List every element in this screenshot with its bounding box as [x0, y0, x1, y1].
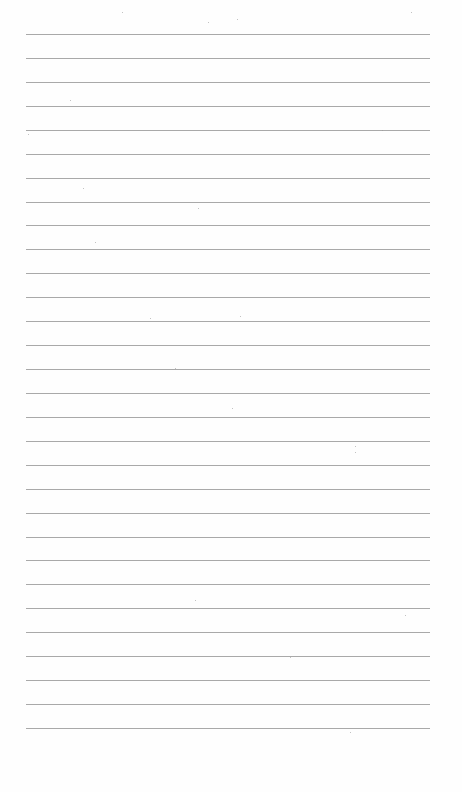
ruled-line	[26, 225, 430, 226]
ruled-line	[26, 584, 430, 585]
ruled-line	[26, 441, 430, 442]
ruled-line	[26, 154, 430, 155]
scan-speck	[122, 12, 123, 13]
ruled-line	[26, 417, 430, 418]
ruled-line	[26, 369, 430, 370]
ruled-line	[26, 34, 430, 35]
scan-speck	[83, 188, 84, 189]
scan-speck	[290, 657, 291, 658]
scan-speck	[175, 368, 176, 369]
scan-speck	[355, 446, 356, 447]
ruled-line	[26, 82, 430, 83]
scan-speck	[208, 22, 209, 23]
ruled-page	[0, 0, 462, 792]
ruled-line	[26, 632, 430, 633]
scan-speck	[350, 732, 351, 733]
scan-speck	[95, 242, 96, 243]
ruled-line	[26, 704, 430, 705]
ruled-line	[26, 728, 430, 729]
ruled-line	[26, 513, 430, 514]
ruled-line	[26, 58, 430, 59]
ruled-line	[26, 273, 430, 274]
ruled-line	[26, 608, 430, 609]
ruled-line	[26, 345, 430, 346]
ruled-line	[26, 489, 430, 490]
scan-speck	[232, 408, 233, 409]
ruled-line	[26, 393, 430, 394]
ruled-line	[26, 178, 430, 179]
scan-speck	[150, 318, 151, 319]
ruled-line	[26, 321, 430, 322]
ruled-line	[26, 297, 430, 298]
scan-speck	[355, 452, 356, 453]
ruled-line	[26, 560, 430, 561]
scan-speck	[28, 134, 29, 135]
scan-speck	[240, 316, 241, 317]
ruled-line	[26, 130, 430, 131]
scan-speck	[382, 130, 383, 131]
scan-speck	[237, 19, 238, 20]
scan-speck	[70, 100, 71, 101]
scan-speck	[405, 615, 406, 616]
ruled-line	[26, 656, 430, 657]
scan-speck	[411, 12, 412, 13]
ruled-line	[26, 202, 430, 203]
scan-speck	[195, 600, 196, 601]
ruled-line	[26, 680, 430, 681]
ruled-line	[26, 106, 430, 107]
ruled-line	[26, 249, 430, 250]
ruled-line	[26, 465, 430, 466]
ruled-line	[26, 537, 430, 538]
scan-speck	[198, 208, 199, 209]
